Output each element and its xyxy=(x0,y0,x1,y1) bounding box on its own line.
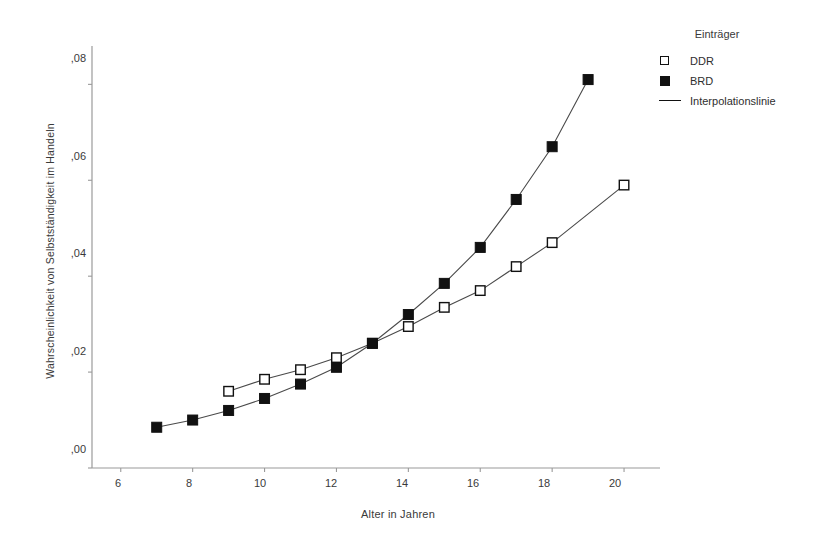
legend: Einträger DDR BRD Interpolationslinie xyxy=(660,28,810,112)
data-point-marker xyxy=(440,303,450,313)
data-point-marker xyxy=(511,194,521,204)
legend-title: Einträger xyxy=(662,28,772,40)
data-point-marker xyxy=(296,365,306,375)
data-point-marker xyxy=(152,422,162,432)
data-point-marker xyxy=(332,353,342,363)
open-square-icon xyxy=(660,56,686,65)
data-point-marker xyxy=(511,262,520,272)
data-point-marker xyxy=(224,405,234,415)
interpolation-line xyxy=(229,185,624,391)
legend-item-label: DDR xyxy=(690,55,714,67)
series-layer xyxy=(152,75,629,433)
legend-item-interpolationslinie[interactable]: Interpolationslinie xyxy=(660,92,810,109)
legend-item-label: Interpolationslinie xyxy=(690,95,776,107)
legend-item-ddr[interactable]: DDR xyxy=(660,52,810,69)
data-point-marker xyxy=(476,286,486,296)
data-point-marker xyxy=(403,310,413,320)
legend-item-label: BRD xyxy=(690,75,713,87)
data-point-marker xyxy=(367,338,377,348)
data-point-marker xyxy=(188,415,198,425)
data-point-marker xyxy=(547,238,557,248)
data-point-marker xyxy=(260,393,270,403)
data-point-marker xyxy=(583,75,593,85)
series-ddr xyxy=(224,180,629,396)
line-icon xyxy=(660,100,686,101)
data-point-marker xyxy=(224,387,234,397)
axis-tickmarks xyxy=(88,84,624,472)
filled-square-icon xyxy=(660,76,686,86)
interpolation-line xyxy=(157,80,588,428)
data-point-marker xyxy=(547,142,557,152)
data-point-marker xyxy=(331,362,341,372)
data-point-marker xyxy=(439,278,449,288)
data-point-marker xyxy=(404,322,414,332)
data-point-marker xyxy=(260,375,270,385)
series-brd xyxy=(152,75,593,433)
data-point-marker xyxy=(619,180,629,190)
legend-item-brd[interactable]: BRD xyxy=(660,72,810,89)
chart-figure: Wahrscheinlichkeit von Selbstständigkeit… xyxy=(0,0,816,545)
data-point-marker xyxy=(475,242,485,252)
data-point-marker xyxy=(296,379,306,389)
